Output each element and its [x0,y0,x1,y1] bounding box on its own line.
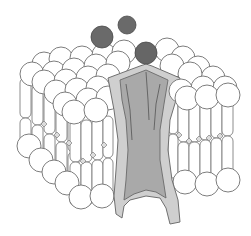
diagram-canvas [0,0,251,236]
ion-sphere [91,26,113,48]
ion-sphere-in-channel [135,42,157,64]
ion-sphere [118,16,136,34]
